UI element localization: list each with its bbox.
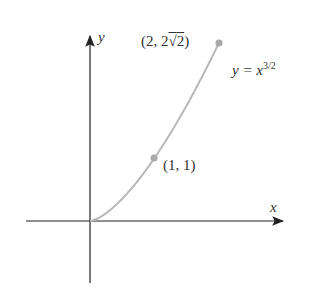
- y-axis-label: y: [98, 29, 105, 46]
- point-2-2root2: [216, 40, 223, 47]
- point1-label: (1, 1): [163, 157, 196, 174]
- point2-label: (2, 2√2): [141, 33, 189, 50]
- x-axis-label: x: [270, 199, 277, 216]
- curve-path: [90, 43, 219, 221]
- point-1-1: [151, 155, 158, 162]
- curve-equation: y = x3/2: [232, 60, 276, 79]
